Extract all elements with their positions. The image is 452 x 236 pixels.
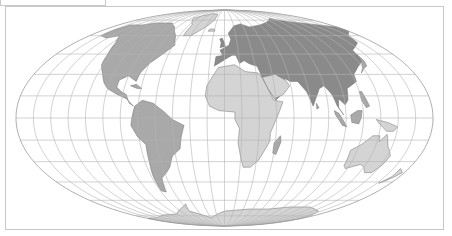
graticule-lines: [16, 10, 433, 226]
landmass-new-zealand: [379, 169, 403, 184]
landmass-new-guinea: [376, 119, 397, 131]
land-masses: [101, 14, 403, 226]
landmass-cuba: [131, 84, 142, 88]
landmass-borneo: [351, 111, 362, 124]
landmass-iceland: [208, 29, 215, 31]
landmass-sri-lanka: [316, 103, 319, 109]
landmass-philippines: [359, 92, 369, 108]
landmass-sumatra: [334, 111, 347, 127]
world-map-mollweide[interactable]: [0, 0, 452, 236]
